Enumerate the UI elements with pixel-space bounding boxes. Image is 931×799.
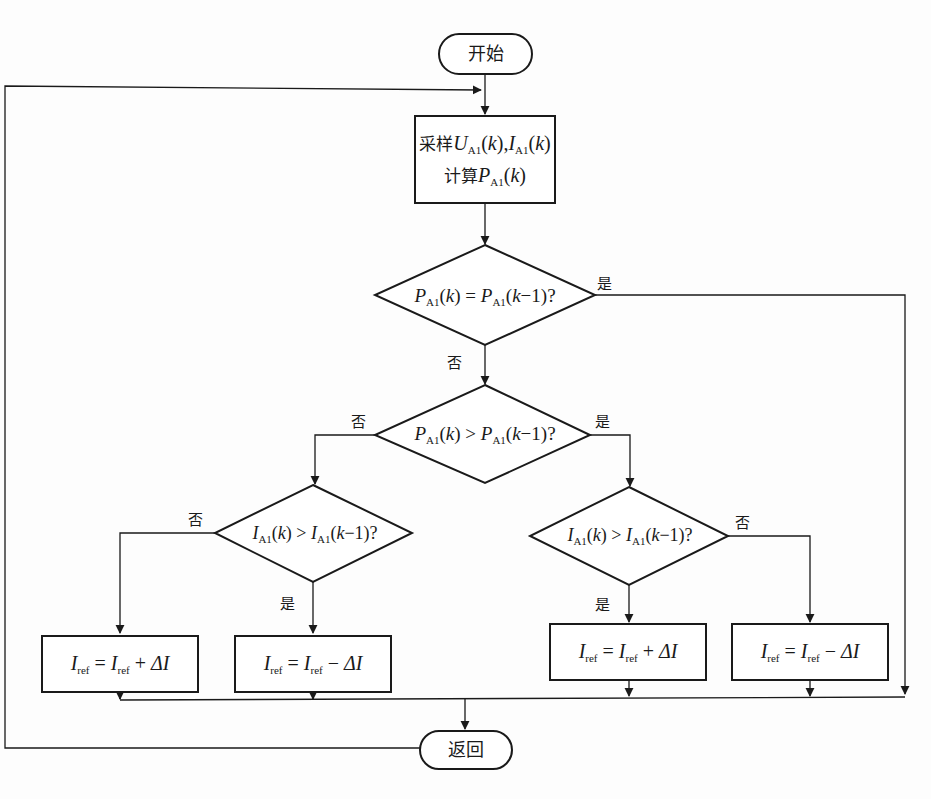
symbol-k: k xyxy=(446,423,454,444)
symbol-p: P xyxy=(414,285,426,306)
symbol-k: k xyxy=(651,525,659,545)
sub-a1: A1 xyxy=(573,535,586,547)
symbol-i: I xyxy=(801,640,808,662)
symbol-k: k xyxy=(593,525,601,545)
symbol-i: I xyxy=(71,652,78,674)
symbol-k: k xyxy=(512,423,520,444)
sub-ref: ref xyxy=(767,652,779,664)
symbol-p: P xyxy=(481,423,493,444)
return-label: 返回 xyxy=(448,741,484,759)
compute-prefix: 计算 xyxy=(444,166,478,186)
sub-a1: A1 xyxy=(468,144,481,156)
sub-ref: ref xyxy=(270,664,282,676)
sub-a1: A1 xyxy=(426,434,439,446)
sample-prefix: 采样 xyxy=(419,134,453,154)
decision-2-text: PA1(k) > PA1(k−1)? xyxy=(414,424,555,446)
gt: > xyxy=(296,523,306,543)
delta-i: ΔI xyxy=(344,652,362,674)
sub-ref: ref xyxy=(117,664,129,676)
decision-3-text: IA1(k) > IA1(k−1)? xyxy=(252,524,377,545)
symbol-k: k xyxy=(488,132,497,154)
minus-one: −1)? xyxy=(521,285,556,306)
op-minus: − xyxy=(328,652,339,674)
sub-ref: ref xyxy=(310,664,322,676)
eq: = xyxy=(603,640,614,662)
symbol-i: I xyxy=(579,640,586,662)
decision-4-text: IA1(k) > IA1(k−1)? xyxy=(567,526,692,547)
symbol-i: I xyxy=(264,652,271,674)
sub-a1: A1 xyxy=(632,535,645,547)
symbol-i: I xyxy=(304,652,311,674)
symbol-p: P xyxy=(481,285,493,306)
sub-a1: A1 xyxy=(492,296,505,308)
delta-i: ΔI xyxy=(151,652,169,674)
op-plus: + xyxy=(135,652,146,674)
sub-a1: A1 xyxy=(490,176,503,188)
minus-one: −1)? xyxy=(521,423,556,444)
sub-a1: A1 xyxy=(492,434,505,446)
process-line-1: 采样UA1(k),IA1(k) xyxy=(419,133,551,156)
sub-a1: A1 xyxy=(426,296,439,308)
sub-a1: A1 xyxy=(258,533,271,545)
symbol-i: I xyxy=(761,640,768,662)
action-2-text: Iref = Iref − ΔI xyxy=(264,653,363,676)
decision-3-no-label: 否 xyxy=(188,513,203,528)
gt: > xyxy=(465,423,476,444)
decision-3-yes-label: 是 xyxy=(280,597,295,612)
delta-i: ΔI xyxy=(659,640,677,662)
sub-a1: A1 xyxy=(515,144,528,156)
action-4-text: Iref = Iref − ΔI xyxy=(761,641,860,664)
eq: = xyxy=(288,652,299,674)
process-box xyxy=(415,116,555,203)
decision-2-yes-label: 是 xyxy=(595,415,610,430)
symbol-k: k xyxy=(446,285,454,306)
symbol-k: k xyxy=(336,523,344,543)
delta-i: ΔI xyxy=(841,640,859,662)
decision-1-yes-label: 是 xyxy=(597,277,612,292)
symbol-i: I xyxy=(619,640,626,662)
decision-4-yes-label: 是 xyxy=(595,598,610,613)
gt: > xyxy=(611,525,621,545)
flowchart-canvas: 开始 采样UA1(k),IA1(k) 计算PA1(k) PA1(k) = PA1… xyxy=(0,0,931,799)
op-minus: − xyxy=(825,640,836,662)
start-label: 开始 xyxy=(468,45,504,63)
sub-ref: ref xyxy=(625,652,637,664)
flowchart-lines xyxy=(0,0,931,799)
sub-ref: ref xyxy=(77,664,89,676)
decision-1-no-label: 否 xyxy=(447,356,462,371)
decision-2-no-label: 否 xyxy=(351,415,366,430)
symbol-p: P xyxy=(414,423,426,444)
symbol-k: k xyxy=(510,164,519,186)
sub-ref: ref xyxy=(807,652,819,664)
eq: = xyxy=(465,285,476,306)
symbol-i: I xyxy=(111,652,118,674)
symbol-k: k xyxy=(512,285,520,306)
symbol-k: k xyxy=(278,523,286,543)
symbol-u: U xyxy=(453,132,467,154)
minus-one: −1)? xyxy=(344,523,377,543)
decision-4-no-label: 否 xyxy=(735,516,750,531)
sub-ref: ref xyxy=(585,652,597,664)
process-line-2: 计算PA1(k) xyxy=(444,165,526,188)
symbol-k: k xyxy=(535,132,544,154)
sub-a1: A1 xyxy=(317,533,330,545)
symbol-i: I xyxy=(508,132,515,154)
action-1-text: Iref = Iref + ΔI xyxy=(71,653,170,676)
eq: = xyxy=(95,652,106,674)
symbol-p: P xyxy=(478,164,490,186)
decision-1-text: PA1(k) = PA1(k−1)? xyxy=(414,286,555,308)
merge-connector xyxy=(120,697,905,700)
eq: = xyxy=(785,640,796,662)
action-3-text: Iref = Iref + ΔI xyxy=(579,641,678,664)
minus-one: −1)? xyxy=(659,525,692,545)
op-plus: + xyxy=(643,640,654,662)
